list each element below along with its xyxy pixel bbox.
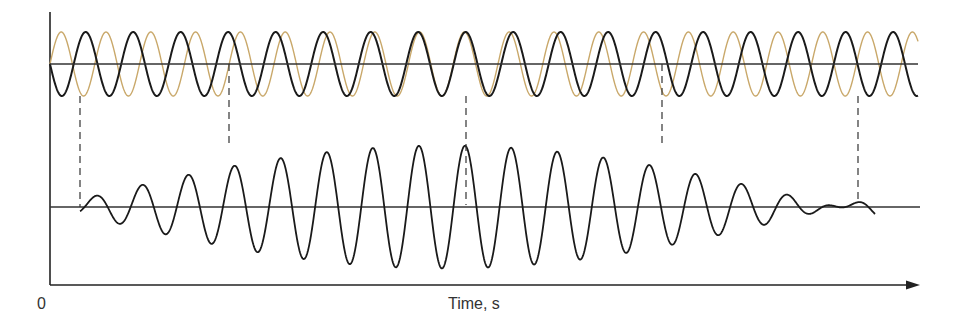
- top-panel-two-sinusoids: [50, 32, 918, 96]
- bottom-panel-beat-waveform: [50, 146, 920, 269]
- x-axis-origin-label: 0: [37, 296, 46, 312]
- dashed-guide-lines: [80, 64, 858, 207]
- beats-diagram: [0, 0, 962, 325]
- x-axis-arrowhead-icon: [906, 281, 920, 290]
- x-axis-title: Time, s: [448, 296, 500, 312]
